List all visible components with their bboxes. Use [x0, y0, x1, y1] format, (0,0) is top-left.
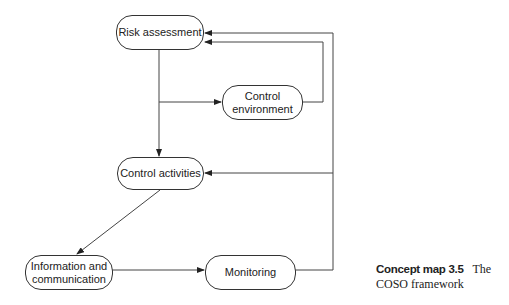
coso-concept-map: Risk assessment Control environment Cont…	[0, 0, 509, 305]
node-control-activities: Control activities	[117, 157, 204, 190]
caption-label: Concept map 3.5	[376, 263, 464, 275]
node-label: Monitoring	[225, 266, 276, 279]
node-label-line2: communication	[32, 273, 106, 286]
node-control-environment: Control environment	[222, 85, 303, 120]
edge-activities-to-information	[77, 190, 160, 254]
node-label: Control activities	[120, 167, 201, 180]
edge-monitoring-to-risk	[205, 33, 333, 270]
node-label: Risk assessment	[118, 26, 201, 39]
figure-caption: Concept map 3.5 The COSO framework	[376, 262, 506, 292]
node-label-line1: Information and	[31, 260, 107, 273]
node-risk-assessment: Risk assessment	[116, 15, 204, 50]
node-monitoring: Monitoring	[205, 255, 296, 290]
node-label: Control environment	[223, 90, 302, 116]
node-information-and-communication: Information and communication	[25, 255, 113, 290]
